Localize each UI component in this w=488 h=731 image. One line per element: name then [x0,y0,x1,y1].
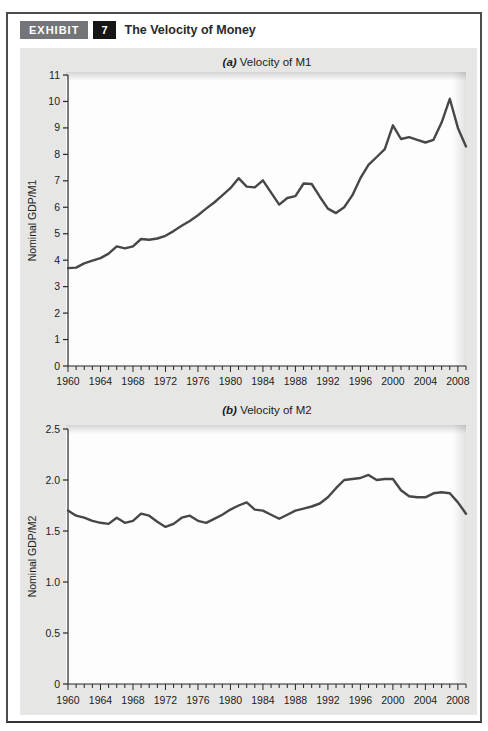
m2-plot-top-shadow [66,425,466,434]
exhibit-title: The Velocity of Money [125,23,256,37]
m1-y-tick-label: 11 [49,69,60,81]
m2-x-tick-label: 1964 [89,694,113,706]
m2-plot-right-shadow [453,425,466,684]
exhibit-number-badge: 7 [93,21,115,39]
m1-y-axis-label: Nominal GDP/M1 [26,180,38,262]
m1-x-tick-label: 1996 [349,375,373,387]
m1-x-tick-label: 1968 [121,375,145,387]
m1-plot-area [66,72,466,366]
m2-y-tick-label: 2.0 [45,474,60,486]
m1-x-tick-label: 2004 [414,375,438,387]
chart-panel: (a) Velocity of M1Nominal GDP/M101234567… [20,48,477,715]
m1-x-tick-label: 2000 [381,375,405,387]
m1-x-tick-label: 2008 [446,375,470,387]
m1-y-tick-label: 3 [54,280,60,292]
m2-x-tick-label: 1984 [251,694,275,706]
m1-x-tick-label: 1988 [284,375,308,387]
m1-y-tick-label: 0 [54,360,60,372]
m2-y-tick-label: 2.5 [45,423,60,435]
m1-y-tick-label: 9 [54,121,60,133]
m2-chart: (b) Velocity of M2Nominal GDP/M200.51.01… [26,404,470,706]
m2-x-tick-label: 1976 [186,694,210,706]
m2-y-tick-label: 0.5 [45,627,60,639]
m1-x-tick-label: 1960 [56,375,80,387]
m1-y-tick-label: 10 [48,95,60,107]
m1-y-tick-label: 8 [54,148,60,160]
m1-y-tick-label: 1 [54,333,60,345]
m1-x-tick-label: 1964 [89,375,113,387]
m2-x-tick-label: 1992 [316,694,340,706]
m1-y-tick-label: 7 [54,174,60,186]
m1-y-tick-label: 4 [54,254,60,266]
m2-y-tick-label: 1.0 [45,576,60,588]
m1-x-tick-label: 1992 [316,375,340,387]
exhibit-frame: EXHIBIT 7 The Velocity of Money (a) Velo… [6,12,482,723]
exhibit-badge: EXHIBIT [20,21,88,39]
m2-x-tick-label: 1960 [56,694,80,706]
m1-y-tick-label: 2 [54,307,60,319]
textbook-page: EXHIBIT 7 The Velocity of Money (a) Velo… [0,0,488,731]
m1-plot-top-shadow [66,72,466,81]
m1-chart: (a) Velocity of M1Nominal GDP/M101234567… [26,56,470,387]
charts-svg: (a) Velocity of M1Nominal GDP/M101234567… [20,48,477,715]
m2-x-tick-label: 2004 [414,694,438,706]
m2-x-tick-label: 1972 [154,694,178,706]
m2-x-tick-label: 1980 [219,694,243,706]
m1-y-tick-label: 6 [54,201,60,213]
m1-x-tick-label: 1972 [154,375,178,387]
m2-x-tick-label: 2000 [381,694,405,706]
m2-y-tick-label: 1.5 [45,525,60,537]
m2-x-tick-label: 2008 [446,694,470,706]
m2-x-tick-label: 1968 [121,694,145,706]
m1-x-tick-label: 1984 [251,375,275,387]
m2-x-tick-label: 1996 [349,694,373,706]
exhibit-header: EXHIBIT 7 The Velocity of Money [20,20,256,40]
m2-chart-title: (b) Velocity of M2 [222,404,311,416]
m2-x-tick-label: 1988 [284,694,308,706]
m2-y-axis-label: Nominal GDP/M2 [26,516,38,598]
m2-y-tick-label: 0 [54,678,60,690]
m1-x-tick-label: 1980 [219,375,243,387]
m1-x-tick-label: 1976 [186,375,210,387]
m1-y-tick-label: 5 [54,227,60,239]
m1-chart-title: (a) Velocity of M1 [223,56,312,68]
m2-plot-area [66,425,466,684]
